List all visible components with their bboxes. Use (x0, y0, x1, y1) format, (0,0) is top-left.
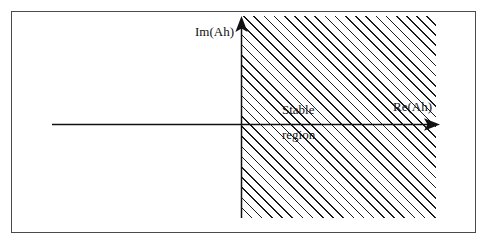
stable-region-label-line1: Stable (282, 103, 315, 116)
imaginary-axis-label: Im(Ah) (195, 25, 234, 38)
figure-container: Im(Ah) Re(Ah) Stable region (0, 0, 488, 241)
real-axis-label: Re(Ah) (393, 100, 432, 113)
plot-area: Im(Ah) Re(Ah) Stable region (0, 0, 488, 241)
stable-region-hatch (241, 16, 436, 218)
stable-region-label-line2: region (282, 128, 315, 141)
